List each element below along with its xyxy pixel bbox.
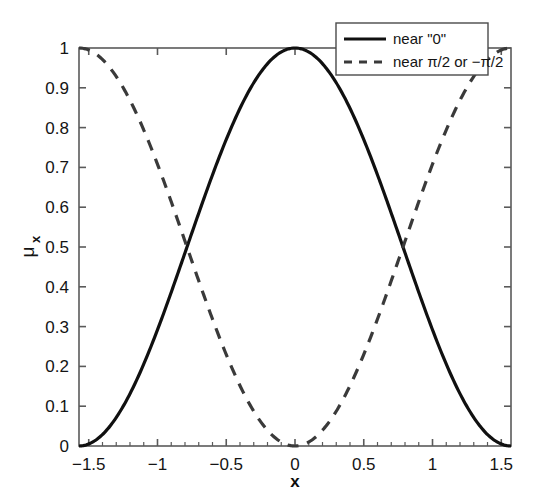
y-tick-label: 0.6 [45, 198, 69, 217]
y-tick-label: 0.2 [45, 357, 69, 376]
membership-function-chart: −1.5−1−0.500.511.500.10.20.30.40.50.60.7… [0, 0, 538, 496]
x-tick-label: 1 [428, 455, 437, 474]
y-tick-label: 0.7 [45, 158, 69, 177]
x-tick-label: −1 [148, 455, 167, 474]
y-tick-label: 0.8 [45, 119, 69, 138]
y-tick-label: 0.5 [45, 238, 69, 257]
x-tick-label: 0.5 [352, 455, 376, 474]
x-tick-label: −1.5 [72, 455, 106, 474]
figure-container: −1.5−1−0.500.511.500.10.20.30.40.50.60.7… [0, 0, 538, 496]
y-tick-label: 0.1 [45, 397, 69, 416]
x-tick-label: −0.5 [209, 455, 243, 474]
legend-label-2[interactable]: near π/2 or −π/2 [393, 53, 503, 70]
legend-label-1[interactable]: near "0" [393, 30, 446, 47]
y-axis-subscript: x [28, 235, 43, 243]
x-tick-label: 1.5 [489, 455, 513, 474]
y-tick-label: 0.9 [45, 79, 69, 98]
y-tick-label: 1 [60, 39, 69, 58]
y-tick-label: 0.4 [45, 278, 69, 297]
x-axis-title: x [290, 472, 300, 491]
y-axis-mu-glyph: μ [17, 247, 38, 258]
chart-legend[interactable]: near "0"near π/2 or −π/2 [336, 23, 503, 75]
y-tick-label: 0 [60, 437, 69, 456]
y-tick-label: 0.3 [45, 318, 69, 337]
